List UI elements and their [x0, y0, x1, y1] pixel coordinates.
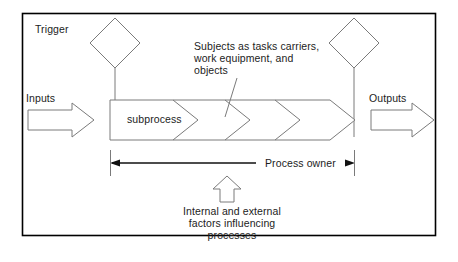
label-process-owner: Process owner [265, 157, 336, 169]
label-inputs: Inputs [26, 92, 55, 104]
label-influencing-factors: Internal and external factors influencin… [168, 205, 296, 241]
diagram-canvas: Trigger Inputs Outputs subprocess Subjec… [0, 0, 458, 262]
label-subjects: Subjects as tasks carriers, work equipme… [194, 40, 319, 76]
label-trigger: Trigger [35, 23, 69, 35]
label-outputs: Outputs [369, 92, 406, 104]
label-subprocess: subprocess [127, 113, 182, 125]
